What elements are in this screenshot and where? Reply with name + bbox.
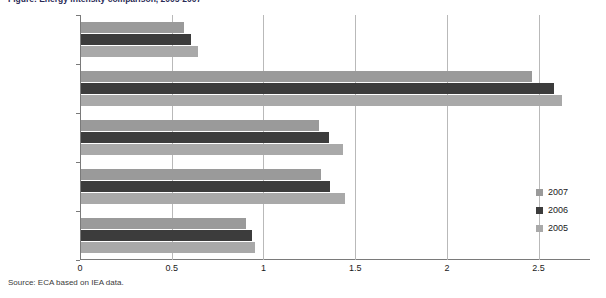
- legend-item-2006[interactable]: 2006: [536, 201, 592, 219]
- x-tick-label: 0: [60, 263, 100, 273]
- bar-south-africa-2006: [81, 83, 554, 94]
- legend-label: 2006: [548, 205, 568, 215]
- bar-north-africa-2007: [81, 120, 319, 131]
- legend-label: 2007: [548, 187, 568, 197]
- bar-africa-2007: [81, 169, 321, 180]
- bar-world-2006: [81, 230, 252, 241]
- bar-ssa-rsa-2005: [81, 46, 198, 57]
- chart-title: Figure: Energy intensity comparison, 200…: [8, 0, 438, 4]
- x-tick-label: 2.5: [519, 263, 559, 273]
- bar-group: SSA-RSA: [81, 15, 590, 64]
- bar-south-africa-2005: [81, 95, 562, 106]
- legend-label: 2005: [548, 223, 568, 233]
- x-tick-label: 1: [243, 263, 283, 273]
- y-axis-tick: [76, 260, 80, 261]
- y-axis-tick: [76, 211, 80, 212]
- x-tick-label: 2: [427, 263, 467, 273]
- y-axis-tick: [76, 64, 80, 65]
- bar-north-africa-2005: [81, 144, 343, 155]
- chart-legend: 200720062005: [536, 183, 592, 237]
- legend-item-2007[interactable]: 2007: [536, 183, 592, 201]
- bar-south-africa-2007: [81, 71, 532, 82]
- source-note: Source: ECA based on IEA data.: [8, 278, 124, 287]
- bar-africa-2005: [81, 193, 345, 204]
- bar-world-2005: [81, 242, 255, 253]
- chart-figure: Figure: Energy intensity comparison, 200…: [0, 0, 606, 298]
- y-axis-tick: [76, 162, 80, 163]
- x-tick-label: 0.5: [152, 263, 192, 273]
- bar-ssa-rsa-2007: [81, 22, 184, 33]
- bar-africa-2006: [81, 181, 330, 192]
- y-axis-tick: [76, 113, 80, 114]
- legend-swatch-icon: [536, 225, 543, 232]
- y-axis-tick: [76, 15, 80, 16]
- plot-area: SSA-RSASouth AfricaNorth AfricaAfricaWor…: [80, 15, 590, 260]
- bar-group: North Africa: [81, 113, 590, 162]
- bar-group: World: [81, 211, 590, 260]
- bar-group: Africa: [81, 162, 590, 211]
- legend-swatch-icon: [536, 207, 543, 214]
- legend-item-2005[interactable]: 2005: [536, 219, 592, 237]
- x-tick-label: 1.5: [335, 263, 375, 273]
- bar-group: South Africa: [81, 64, 590, 113]
- bar-world-2007: [81, 218, 246, 229]
- legend-swatch-icon: [536, 189, 543, 196]
- bar-north-africa-2006: [81, 132, 329, 143]
- bar-ssa-rsa-2006: [81, 34, 191, 45]
